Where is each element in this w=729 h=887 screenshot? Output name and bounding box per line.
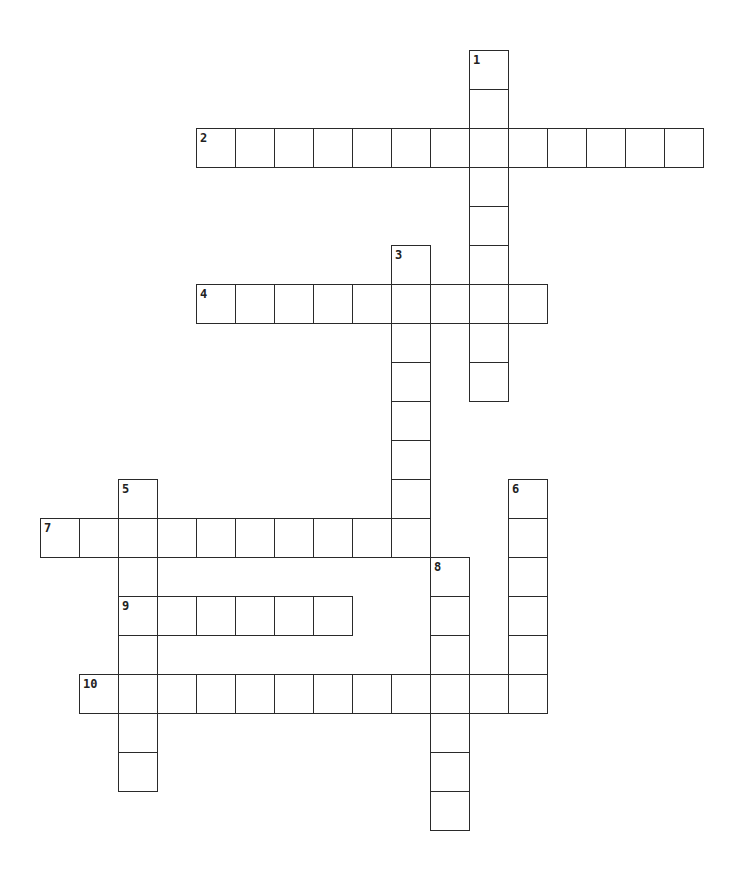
crossword-cell[interactable] <box>469 128 509 168</box>
crossword-cell[interactable] <box>391 674 431 714</box>
crossword-cell[interactable] <box>508 518 548 558</box>
clue-number: 4 <box>200 288 207 300</box>
crossword-cell[interactable] <box>469 362 509 402</box>
crossword-cell[interactable] <box>235 674 275 714</box>
crossword-cell[interactable] <box>391 518 431 558</box>
crossword-cell[interactable] <box>391 401 431 441</box>
crossword-cell[interactable] <box>196 674 236 714</box>
crossword-cell[interactable] <box>235 596 275 636</box>
crossword-cell[interactable] <box>391 362 431 402</box>
crossword-cell[interactable]: 4 <box>196 284 236 324</box>
crossword-cell[interactable] <box>430 674 470 714</box>
clue-number: 3 <box>395 249 402 261</box>
crossword-cell[interactable] <box>430 596 470 636</box>
crossword-cell[interactable] <box>508 635 548 675</box>
crossword-cell[interactable] <box>274 674 314 714</box>
crossword-cell[interactable] <box>157 674 197 714</box>
crossword-cell[interactable] <box>157 518 197 558</box>
crossword-cell[interactable] <box>274 518 314 558</box>
crossword-cell[interactable] <box>352 284 392 324</box>
crossword-cell[interactable] <box>430 284 470 324</box>
crossword-grid: 12345967810 <box>0 0 729 887</box>
crossword-cell[interactable] <box>508 674 548 714</box>
crossword-cell[interactable] <box>469 89 509 129</box>
crossword-cell[interactable] <box>508 557 548 597</box>
crossword-cell[interactable] <box>118 752 158 792</box>
clue-number: 10 <box>83 678 97 690</box>
crossword-cell[interactable] <box>469 323 509 363</box>
crossword-cell[interactable] <box>235 284 275 324</box>
crossword-cell[interactable] <box>586 128 626 168</box>
crossword-cell[interactable] <box>313 596 353 636</box>
crossword-cell[interactable] <box>391 128 431 168</box>
crossword-cell[interactable] <box>430 791 470 831</box>
crossword-cell[interactable] <box>313 518 353 558</box>
crossword-cell[interactable] <box>391 440 431 480</box>
crossword-cell[interactable] <box>274 596 314 636</box>
crossword-cell[interactable] <box>118 674 158 714</box>
crossword-cell[interactable] <box>469 245 509 285</box>
crossword-cell[interactable] <box>274 284 314 324</box>
crossword-cell[interactable] <box>274 128 314 168</box>
crossword-cell[interactable] <box>118 557 158 597</box>
crossword-cell[interactable] <box>430 128 470 168</box>
crossword-cell[interactable] <box>469 674 509 714</box>
clue-number: 6 <box>512 483 519 495</box>
clue-number: 2 <box>200 132 207 144</box>
crossword-cell[interactable] <box>313 674 353 714</box>
crossword-cell[interactable] <box>664 128 704 168</box>
crossword-cell[interactable] <box>352 128 392 168</box>
crossword-cell[interactable]: 8 <box>430 557 470 597</box>
crossword-cell[interactable]: 2 <box>196 128 236 168</box>
clue-number: 5 <box>122 483 129 495</box>
crossword-cell[interactable] <box>469 167 509 207</box>
crossword-cell[interactable] <box>430 752 470 792</box>
clue-number: 7 <box>44 522 51 534</box>
crossword-cell[interactable] <box>625 128 665 168</box>
clue-number: 9 <box>122 600 129 612</box>
crossword-cell[interactable] <box>430 635 470 675</box>
crossword-cell[interactable] <box>469 284 509 324</box>
crossword-cell[interactable] <box>118 518 158 558</box>
crossword-cell[interactable]: 3 <box>391 245 431 285</box>
crossword-cell[interactable]: 10 <box>79 674 119 714</box>
crossword-cell[interactable] <box>313 284 353 324</box>
crossword-cell[interactable] <box>235 518 275 558</box>
crossword-cell[interactable] <box>508 284 548 324</box>
crossword-cell[interactable] <box>235 128 275 168</box>
crossword-cell[interactable]: 6 <box>508 479 548 519</box>
crossword-cell[interactable] <box>196 518 236 558</box>
crossword-cell[interactable]: 9 <box>118 596 158 636</box>
crossword-cell[interactable] <box>430 713 470 753</box>
crossword-cell[interactable] <box>79 518 119 558</box>
crossword-cell[interactable] <box>508 596 548 636</box>
crossword-cell[interactable] <box>547 128 587 168</box>
clue-number: 1 <box>473 54 480 66</box>
crossword-cell[interactable]: 1 <box>469 50 509 90</box>
crossword-cell[interactable] <box>118 713 158 753</box>
crossword-cell[interactable] <box>352 518 392 558</box>
crossword-cell[interactable] <box>508 128 548 168</box>
crossword-cell[interactable] <box>196 596 236 636</box>
crossword-cell[interactable]: 5 <box>118 479 158 519</box>
crossword-cell[interactable] <box>391 284 431 324</box>
crossword-cell[interactable] <box>391 479 431 519</box>
crossword-cell[interactable] <box>469 206 509 246</box>
crossword-cell[interactable] <box>391 323 431 363</box>
crossword-cell[interactable] <box>352 674 392 714</box>
crossword-cell[interactable]: 7 <box>40 518 80 558</box>
clue-number: 8 <box>434 561 441 573</box>
crossword-cell[interactable] <box>313 128 353 168</box>
crossword-cell[interactable] <box>118 635 158 675</box>
crossword-cell[interactable] <box>157 596 197 636</box>
